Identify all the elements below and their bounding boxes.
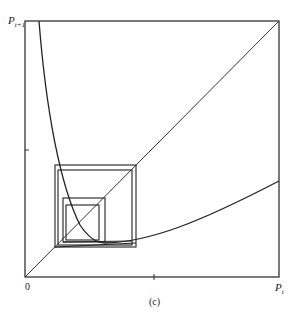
x-axis-label: Pt bbox=[275, 281, 284, 296]
decreasing-curve bbox=[39, 21, 105, 243]
figure-caption: (c) bbox=[149, 296, 160, 307]
increasing-curve bbox=[105, 181, 279, 243]
cobweb-chart bbox=[0, 0, 297, 322]
origin-label: 0 bbox=[25, 281, 30, 292]
y-axis-label: Pt+1 bbox=[8, 14, 25, 29]
